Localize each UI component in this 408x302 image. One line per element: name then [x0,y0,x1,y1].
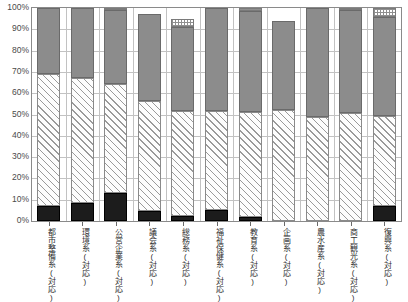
bar-segment-dotted-segment[interactable] [339,8,362,10]
plot-area [31,7,402,222]
bar-segment-gray-segment[interactable] [104,10,127,83]
bar-group[interactable] [239,8,262,221]
x-axis-category-label: 都市整備系(対応) [43,228,56,302]
bar-segment-gray-segment[interactable] [306,8,329,117]
gridline-vertical [200,8,201,221]
x-axis-category-label: 議会系(対応) [143,228,156,286]
gridline-vertical [166,8,167,221]
bar-segment-black-segment[interactable] [205,210,228,221]
bar-segment-hatched-segment[interactable] [171,111,194,215]
bar-segment-hatched-segment[interactable] [306,117,329,221]
bar-segment-hatched-segment[interactable] [339,113,362,221]
bar-segment-black-segment[interactable] [104,193,127,221]
bar-segment-hatched-segment[interactable] [205,111,228,210]
bar-segment-hatched-segment[interactable] [71,78,94,203]
x-axis-tick [250,222,251,226]
y-axis-tick-label: 20% [2,173,29,182]
x-axis-tick [384,222,385,226]
x-axis-category-label: 復興系(対応) [378,228,391,286]
bar-group[interactable] [71,8,94,221]
bar-segment-hatched-segment[interactable] [104,84,127,194]
bar-segment-hatched-segment[interactable] [272,110,295,221]
bar-segment-black-segment[interactable] [239,217,262,221]
x-axis-category-label: 教育系(対応) [244,228,257,286]
y-axis-tick-label: 10% [2,195,29,204]
bar-segment-gray-segment[interactable] [138,14,161,100]
y-axis-tick-label: 30% [2,152,29,161]
x-axis-tick [183,222,184,226]
y-axis-tick-label: 60% [2,88,29,97]
gridline-vertical [300,8,301,221]
bar-segment-gray-segment[interactable] [339,10,362,113]
y-axis-tick-label: 0% [2,216,29,225]
x-axis-tick [149,222,150,226]
x-axis-category-label: 公営企業系(対応) [110,228,123,302]
bar-segment-hatched-segment[interactable] [373,116,396,207]
x-axis-tick [284,222,285,226]
y-axis-tick-label: 100% [2,3,29,12]
bar-segment-gray-segment[interactable] [373,17,396,116]
bar-group[interactable] [37,8,60,221]
y-axis: 0%10%20%30%40%50%60%70%80%90%100% [0,0,29,240]
bar-segment-dotted-segment[interactable] [104,8,127,10]
bar-group[interactable] [373,8,396,221]
bar-group[interactable] [104,8,127,221]
x-axis-tick [351,222,352,226]
gridline-vertical [267,8,268,221]
x-axis-tick [317,222,318,226]
y-axis-tick-label: 90% [2,24,29,33]
bar-group[interactable] [138,8,161,221]
bar-group[interactable] [205,8,228,221]
bar-group[interactable] [306,8,329,221]
bar-segment-dotted-segment[interactable] [171,19,194,28]
gridline-vertical [66,8,67,221]
bar-segment-black-segment[interactable] [138,211,161,221]
bar-group[interactable] [272,8,295,221]
bar-segment-dotted-segment[interactable] [239,8,262,11]
bar-segment-gray-segment[interactable] [171,27,194,111]
bar-segment-hatched-segment[interactable] [138,101,161,212]
gridline-vertical [133,8,134,221]
bar-segment-black-segment[interactable] [171,216,194,221]
x-axis-tick [82,222,83,226]
bar-segment-hatched-segment[interactable] [37,74,60,206]
y-axis-tick-label: 50% [2,110,29,119]
x-axis-category-label: 農水産系(対応) [311,228,324,294]
bar-segment-black-segment[interactable] [37,206,60,221]
x-axis-category-label: 福祉保健系(対応) [211,228,224,302]
y-axis-tick-label: 80% [2,46,29,55]
bar-segment-gray-segment[interactable] [239,11,262,112]
x-axis-category-label: 環境系(対応) [76,228,89,286]
gridline-vertical [334,8,335,221]
x-axis-tick [217,222,218,226]
y-axis-tick-label: 70% [2,67,29,76]
bar-segment-gray-segment[interactable] [37,8,60,74]
x-axis-tick [116,222,117,226]
bar-segment-black-segment[interactable] [71,203,94,221]
x-axis-tick [49,222,50,226]
y-axis-tick-label: 40% [2,131,29,140]
bar-segment-hatched-segment[interactable] [239,112,262,216]
gridline-vertical [233,8,234,221]
bar-segment-dotted-segment[interactable] [373,8,396,17]
bar-group[interactable] [171,8,194,221]
bar-segment-gray-segment[interactable] [272,21,295,110]
bar-group[interactable] [339,8,362,221]
x-axis-category-label: 企画系(対応) [278,228,291,286]
bar-segment-gray-segment[interactable] [205,8,228,111]
gridline-vertical [367,8,368,221]
x-axis-category-label: 総務系(対応) [177,228,190,286]
bar-segment-gray-segment[interactable] [71,8,94,78]
bar-segment-black-segment[interactable] [373,206,396,221]
x-axis-category-label: 商工観光系(対応) [345,228,358,302]
gridline-vertical [99,8,100,221]
